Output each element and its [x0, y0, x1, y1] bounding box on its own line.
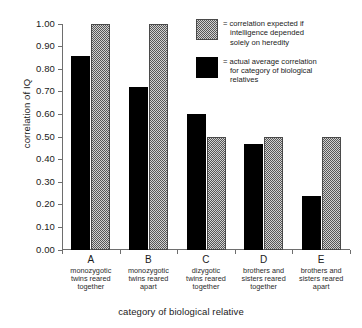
- category-letter: A: [62, 254, 120, 265]
- legend: =correlation expected ifintelligence dep…: [196, 18, 362, 94]
- bar-actual-d: [244, 144, 263, 250]
- legend-item: =actual average correlationfor category …: [196, 56, 362, 85]
- y-tick-label: 1.00: [36, 18, 55, 29]
- legend-label-line: =actual average correlation: [223, 57, 317, 66]
- x-tick-mark: [350, 250, 351, 254]
- category-description-line: together: [177, 283, 235, 291]
- category-description-line: apart: [292, 283, 350, 291]
- category-description-line: together: [235, 283, 293, 291]
- bar-expected-b: [149, 24, 168, 250]
- legend-equals-sign: =: [223, 19, 227, 28]
- legend-label: =correlation expected ifintelligence dep…: [223, 18, 304, 47]
- legend-label-line: intelligence depended: [223, 28, 304, 37]
- category-letter: C: [177, 254, 235, 265]
- y-tick-mark: [58, 114, 62, 115]
- iq-correlation-bar-chart: correlation of IQ category of biological…: [0, 0, 362, 328]
- legend-equals-sign: =: [223, 57, 227, 66]
- y-tick-mark: [58, 46, 62, 47]
- legend-label: =actual average correlationfor category …: [223, 56, 317, 85]
- y-tick-mark: [58, 182, 62, 183]
- bar-expected-c: [207, 137, 226, 250]
- y-tick-label: 0.20: [36, 198, 55, 209]
- y-tick-label: 0.60: [36, 108, 55, 119]
- y-tick-mark: [58, 91, 62, 92]
- category-label-e: Ebrothers andsisters rearedapart: [292, 254, 350, 292]
- legend-swatch-actual: [196, 57, 218, 78]
- category-letter: D: [235, 254, 293, 265]
- y-tick-mark: [58, 159, 62, 160]
- category-label-d: Dbrothers andsisters rearedtogether: [235, 254, 293, 292]
- category-letter: B: [120, 254, 178, 265]
- y-tick-label: 0.70: [36, 85, 55, 96]
- y-axis-title: correlation of IQ: [21, 44, 32, 184]
- category-letter: E: [292, 254, 350, 265]
- category-description-line: together: [62, 283, 120, 291]
- y-tick-label: 0.00: [36, 244, 55, 255]
- category-label-a: Amonozygotictwins rearedtogether: [62, 254, 120, 292]
- y-tick-mark: [58, 24, 62, 25]
- y-tick-mark: [58, 227, 62, 228]
- category-label-c: Cdizygotictwins rearedtogether: [177, 254, 235, 292]
- y-tick-mark: [58, 69, 62, 70]
- bar-expected-d: [264, 137, 283, 250]
- y-axis-line: [62, 24, 63, 250]
- category-label-b: Bmonozygotictwins rearedapart: [120, 254, 178, 292]
- y-tick-label: 0.90: [36, 40, 55, 51]
- x-axis-title: category of biological relative: [0, 306, 362, 317]
- y-tick-label: 0.10: [36, 221, 55, 232]
- bar-actual-e: [302, 196, 321, 250]
- y-tick-label: 0.40: [36, 153, 55, 164]
- bar-actual-b: [129, 87, 148, 250]
- y-tick-mark: [58, 204, 62, 205]
- bar-actual-c: [187, 114, 206, 250]
- legend-item: =correlation expected ifintelligence dep…: [196, 18, 362, 47]
- y-tick-mark: [58, 137, 62, 138]
- legend-label-line: for category of biological: [223, 66, 317, 75]
- y-tick-label: 0.30: [36, 176, 55, 187]
- legend-label-line: relatives: [223, 75, 317, 84]
- legend-swatch-expected: [196, 19, 218, 40]
- category-description-line: apart: [120, 283, 178, 291]
- bar-expected-a: [91, 24, 110, 250]
- legend-label-line: solely on heredity: [223, 38, 304, 47]
- y-tick-label: 0.80: [36, 63, 55, 74]
- bar-actual-a: [71, 56, 90, 250]
- legend-label-line: =correlation expected if: [223, 19, 304, 28]
- y-tick-label: 0.50: [36, 131, 55, 142]
- bar-expected-e: [322, 137, 341, 250]
